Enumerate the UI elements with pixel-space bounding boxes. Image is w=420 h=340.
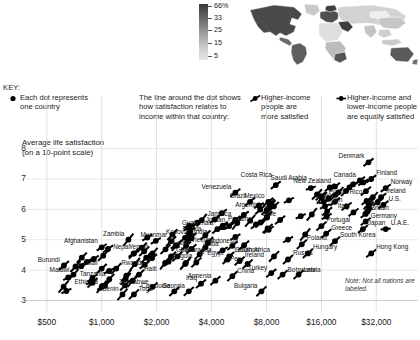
y-tick-label-6: 6 — [14, 204, 26, 214]
country-dot — [271, 254, 277, 260]
country-label-finland: Finland — [376, 169, 397, 176]
country-dot — [198, 281, 204, 287]
y-tick-label-5: 5 — [14, 234, 26, 244]
country-label-mali: Mali — [86, 259, 98, 266]
country-dot — [319, 223, 325, 229]
data-point-costa-rica — [271, 181, 281, 189]
country-label-burundi: Burundi — [38, 256, 60, 263]
data-point-south-africa — [269, 251, 279, 262]
country-label-costa-rica: Costa Rica — [241, 171, 272, 178]
country-dot — [351, 210, 357, 216]
country-dot — [125, 237, 131, 243]
country-label-yemen: Yemen — [129, 243, 149, 250]
country-dot — [370, 194, 376, 200]
country-dot — [131, 292, 137, 298]
country-label-haiti: Haiti — [144, 265, 157, 272]
country-label-hong-kong: Hong Kong — [376, 243, 408, 250]
country-label-georgia: Georgia — [162, 282, 185, 289]
y-tick-label-3: 3 — [14, 295, 26, 305]
country-dot — [213, 278, 219, 284]
country-label-ireland: Ireland — [386, 187, 406, 194]
data-point-georgia — [184, 287, 194, 296]
data-point-u-a-e- — [381, 226, 391, 232]
country-dot — [258, 220, 264, 226]
country-label-indonesia: Indonesia — [210, 237, 238, 244]
country-dot — [193, 260, 199, 266]
country-dot — [186, 288, 192, 294]
country-dot — [309, 212, 315, 218]
data-point-iraq — [196, 280, 206, 288]
country-label-venezuela: Venezuela — [201, 183, 231, 190]
figure-root: 66% 33 25 15 5 KEY: Each dot represents … — [0, 0, 420, 340]
country-label-south-korea: South Korea — [340, 231, 376, 238]
country-label-egypt: Egypt — [207, 249, 223, 256]
country-dot — [360, 180, 366, 186]
country-dot — [280, 272, 286, 278]
data-point-unlabeled-42 — [284, 197, 294, 203]
data-point-chile — [275, 216, 285, 224]
y-tick-label-7: 7 — [14, 173, 26, 183]
country-dot — [277, 217, 283, 223]
country-dot — [299, 241, 305, 247]
country-label-india: India — [194, 228, 208, 235]
country-label-rwanda: Rwanda — [121, 259, 144, 266]
x-tick-label-1: $1,000 — [89, 317, 115, 327]
country-dot — [113, 266, 119, 272]
country-label-myanmar: Myanmar — [140, 231, 167, 238]
country-label-japan: Japan — [368, 219, 385, 226]
country-dot — [99, 244, 105, 250]
data-point-denmark — [364, 158, 374, 166]
country-dot — [163, 246, 169, 252]
data-point-russia — [283, 255, 293, 264]
country-label-puerto-rico: Puerto Rico — [329, 188, 362, 195]
country-label-bulgaria: Bulgaria — [234, 282, 257, 289]
country-dot — [308, 185, 314, 191]
country-label-mexico: Mexico — [244, 192, 264, 199]
country-label-u-a-e-: U.A.E. — [391, 219, 409, 226]
country-label-norway: Norway — [391, 178, 413, 185]
data-point-togo — [129, 289, 139, 299]
country-dot — [100, 253, 106, 259]
data-point-unlabeled-29 — [129, 250, 139, 257]
data-point-saudi-arabia — [306, 185, 316, 191]
country-dot — [383, 226, 389, 232]
data-point-bulgaria — [256, 286, 266, 296]
x-tick-label-6: $32,000 — [361, 317, 391, 327]
country-label-south-africa: South Africa — [236, 246, 270, 253]
country-label-turkey: Turkey — [248, 264, 267, 271]
country-dot — [368, 176, 374, 182]
country-dot — [131, 251, 137, 257]
country-label-portugal: Portugal — [326, 216, 350, 223]
country-label-nepal: Nepal — [113, 243, 130, 250]
country-dot — [366, 159, 372, 165]
country-label-benin: Benin — [102, 285, 118, 292]
country-label-tanzania: Tanzania — [80, 270, 106, 277]
country-dot — [153, 238, 159, 244]
y-tick-label-8: 8 — [14, 143, 26, 153]
country-label-laos: Laos — [174, 239, 188, 246]
country-label-latvia: Latvia — [304, 266, 321, 273]
country-label-greece: Greece — [331, 224, 352, 231]
country-label-canada: Canada — [333, 171, 355, 178]
country-label-u-s-: U.S. — [388, 195, 400, 202]
country-label-germany: Germany — [371, 212, 397, 219]
country-dot — [368, 251, 374, 257]
x-tick-label-3: $4,000 — [199, 317, 225, 327]
data-point-china — [227, 271, 237, 281]
country-dot — [286, 197, 292, 203]
data-point-botswana — [278, 270, 288, 279]
country-label-jordan: Jordan — [206, 216, 226, 223]
country-dot — [183, 260, 189, 266]
data-point-poland — [297, 240, 307, 249]
country-label-malawi: Malawi — [50, 266, 70, 273]
data-point-unlabeled-67 — [361, 187, 371, 196]
country-label-armenia: Armenia — [188, 272, 212, 279]
country-dot — [285, 257, 291, 263]
country-dot — [365, 209, 371, 215]
country-label-argentina: Argentina — [235, 201, 262, 208]
country-label-poland: Poland — [307, 234, 327, 241]
country-label-panama: Panama — [228, 215, 252, 222]
country-label-chile: Chile — [262, 210, 277, 217]
country-label-hungary: Hungary — [313, 243, 337, 250]
country-label-ethiopia: Ethiopia — [75, 278, 98, 285]
